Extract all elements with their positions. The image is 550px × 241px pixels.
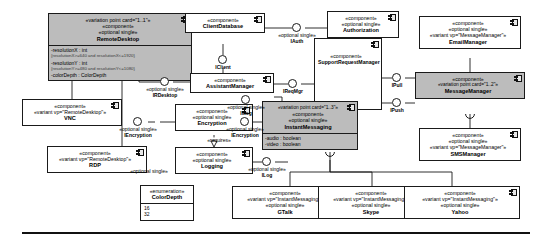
- component-icon: [347, 104, 355, 111]
- component-icon: [242, 150, 250, 157]
- attribute-list: -resolutionX : int {resolutionX>=640 and…: [49, 45, 191, 80]
- component-icon: [371, 41, 379, 48]
- interface-label: «optional single» ILog: [238, 166, 296, 178]
- component-support-request-manager[interactable]: «component» SupportRequestManager: [314, 38, 382, 110]
- interface-label: «optional single» IRDesktop: [134, 86, 196, 98]
- interface-label: «optional single» IAuth: [266, 32, 328, 44]
- interface-ball-icon: [218, 55, 227, 64]
- stereotype-variant: «variant vp="MessageManager"»: [423, 32, 513, 38]
- component-name: AssistantManager: [194, 83, 266, 89]
- attribute-row: -video : boolean: [265, 141, 355, 147]
- enumeration-name: ColorDepth: [143, 194, 191, 200]
- interface-label: «optional single» IMsg: [219, 104, 273, 116]
- component-icon: [388, 14, 396, 21]
- component-authorization[interactable]: «component» «optional single» Authorizat…: [327, 11, 399, 38]
- interface-label: «optional single» IEncryption: [105, 126, 171, 138]
- interface-ball-icon: [240, 117, 249, 126]
- component-icon: [514, 75, 522, 82]
- interface-ball-icon: [292, 23, 301, 32]
- component-remote-desktop[interactable]: «variation point card="1..1"» «component…: [48, 13, 192, 81]
- component-name: InstantMessaging: [266, 124, 350, 130]
- uml-component-diagram: «variation point card="1..1"» «component…: [0, 0, 550, 241]
- attribute-row: -resolutionY : int {resolutionY>=480 and…: [51, 60, 189, 73]
- component-name: VNC: [26, 115, 114, 121]
- interface-ball-icon: [392, 98, 401, 107]
- component-vnc[interactable]: «component» «variant vp="RemoteDesktop"»…: [22, 99, 122, 126]
- component-name: EmailManager: [423, 39, 513, 45]
- component-icon: [510, 131, 518, 138]
- component-name: Logging: [179, 163, 245, 169]
- component-yahoo[interactable]: «component» «variant vp="InstantMessagin…: [404, 186, 520, 219]
- interface-ball-icon: [288, 79, 297, 88]
- component-icon: [263, 76, 271, 83]
- component-name: RemoteDesktop: [52, 36, 184, 42]
- component-name: Yahoo: [408, 209, 512, 215]
- enumeration-literal: 16: [144, 205, 190, 212]
- attribute-row: -resolutionX : int {resolutionX>=640 and…: [51, 47, 189, 60]
- component-name: MessageManager: [419, 88, 517, 94]
- component-name: SMSManager: [423, 151, 513, 157]
- component-icon: [254, 16, 262, 23]
- enumeration-color-depth[interactable]: «enumeration» ColorDepth 16 32: [140, 185, 194, 221]
- interface-ball-icon: [133, 117, 142, 126]
- enumeration-literals: 16 32: [141, 203, 193, 220]
- component-icon: [510, 19, 518, 26]
- edge-label-requires: «requires»: [190, 137, 248, 143]
- component-icon: [509, 189, 517, 196]
- component-icon: [136, 149, 144, 156]
- interface-ball-icon: [262, 157, 271, 166]
- interface-label: IPush: [378, 107, 416, 113]
- interface-label: IPull: [378, 82, 416, 88]
- interface-label: IReqMgr: [272, 88, 314, 94]
- stereotype-variant: «variant vp="MessageManager"»: [423, 144, 513, 150]
- component-client-database[interactable]: «component» ClientDatabase: [185, 13, 265, 33]
- attribute-row: -colorDepth : ColorDepth: [51, 72, 189, 78]
- interface-label: IClient: [202, 64, 244, 70]
- interface-ball-icon: [160, 77, 169, 86]
- component-message-manager[interactable]: «component» «variation point card="1..2"…: [415, 72, 525, 99]
- interface-ball-icon: [241, 95, 250, 104]
- component-sms-manager[interactable]: «component» «optional single» «variant v…: [419, 128, 521, 161]
- component-name: Authorization: [331, 27, 391, 33]
- component-name: ClientDatabase: [189, 23, 257, 29]
- component-icon: [111, 102, 119, 109]
- component-assistant-manager[interactable]: «component» AssistantManager: [190, 73, 274, 93]
- component-name: SupportRequestManager: [318, 59, 374, 65]
- interface-ball-icon: [392, 73, 401, 82]
- edge-label-optional-single: «optional single»: [118, 168, 180, 174]
- component-email-manager[interactable]: «component» «optional single» «variant v…: [419, 16, 521, 49]
- enumeration-literal: 32: [144, 211, 190, 218]
